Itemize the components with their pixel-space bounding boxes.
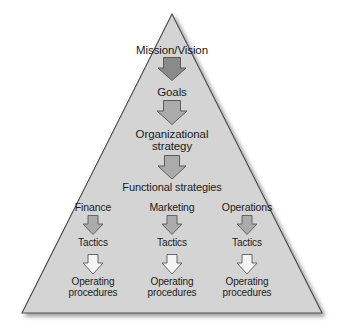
label-organizational-strategy: Organizational strategy	[136, 128, 209, 153]
label-goals: Goals	[157, 86, 187, 98]
label-finance-tactics: Tactics	[78, 238, 108, 249]
label-marketing-tactics: Tactics	[157, 238, 187, 249]
label-mission-vision: Mission/Vision	[136, 44, 208, 56]
label-area-finance: Finance	[75, 202, 112, 213]
label-functional-strategies: Functional strategies	[122, 182, 221, 194]
label-area-operations: Operations	[222, 202, 272, 213]
label-finance-operating-procedures: Operating procedures	[68, 277, 117, 299]
label-operations-tactics: Tactics	[232, 238, 262, 249]
strategy-pyramid-diagram: Mission/Vision Goals Organizational stra…	[0, 0, 344, 331]
label-marketing-operating-procedures: Operating procedures	[147, 277, 196, 299]
label-operations-operating-procedures: Operating procedures	[222, 277, 271, 299]
label-area-marketing: Marketing	[149, 202, 194, 213]
